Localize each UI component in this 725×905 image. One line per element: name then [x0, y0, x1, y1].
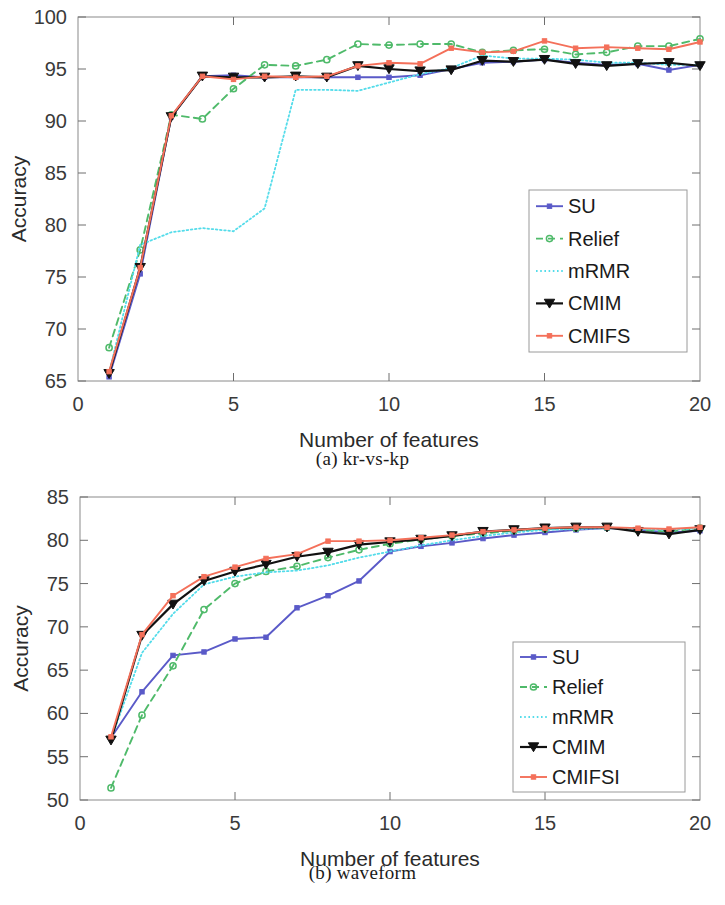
x-axis-tick-label: 0 [74, 812, 85, 834]
data-point-marker [264, 635, 268, 639]
data-point-marker [698, 525, 702, 529]
data-point-marker [418, 62, 422, 66]
data-point-marker [107, 369, 111, 373]
chart-a-svg: 6570758085909510005101520Number of featu… [0, 0, 725, 492]
chart-panel-a: 6570758085909510005101520Number of featu… [0, 0, 725, 492]
data-point-marker [233, 565, 237, 569]
data-point-marker [605, 45, 609, 49]
y-axis-tick-label: 95 [45, 58, 67, 80]
data-point-marker [202, 650, 206, 654]
legend-label: mRMR [568, 260, 630, 282]
data-point-marker [667, 47, 671, 51]
data-point-marker [450, 533, 454, 537]
data-point-marker [169, 114, 173, 118]
y-axis-tick-label: 70 [45, 318, 67, 340]
y-axis-tick-label: 70 [47, 616, 69, 638]
data-point-marker [542, 39, 546, 43]
data-point-marker [109, 735, 113, 739]
legend-label: Relief [552, 676, 604, 698]
data-point-marker [356, 64, 360, 68]
x-axis-tick-label: 0 [72, 393, 83, 415]
data-point-marker [294, 75, 298, 79]
legend-label: CMIM [552, 736, 605, 758]
data-point-marker [667, 68, 671, 72]
data-point-marker [531, 655, 535, 659]
x-axis-tick-label: 5 [229, 812, 240, 834]
data-point-marker [547, 334, 551, 338]
y-axis-tick-label: 80 [47, 529, 69, 551]
data-point-marker [574, 525, 578, 529]
data-point-marker [326, 539, 330, 543]
data-point-marker [140, 690, 144, 694]
data-point-marker [419, 535, 423, 539]
chart-panel-b: 505560657075808505101520Number of featur… [0, 470, 725, 905]
x-axis-tick-label: 10 [379, 812, 401, 834]
data-point-marker [200, 74, 204, 78]
data-point-marker [481, 529, 485, 533]
data-point-marker [636, 46, 640, 50]
data-point-marker [138, 265, 142, 269]
y-axis-tick-label: 50 [47, 789, 69, 811]
data-point-marker [667, 527, 671, 531]
data-point-marker [140, 632, 144, 636]
legend-label: Relief [568, 228, 620, 250]
figure-root: 6570758085909510005101520Number of featu… [0, 0, 725, 905]
x-axis-tick-label: 15 [533, 393, 555, 415]
data-point-marker [325, 74, 329, 78]
data-point-marker [357, 539, 361, 543]
x-axis-tick-label: 5 [228, 393, 239, 415]
data-point-marker [324, 57, 330, 63]
legend-label: CMIM [568, 292, 621, 314]
legend-label: CMIFS [568, 325, 630, 347]
x-axis-tick-label: 20 [689, 812, 711, 834]
data-point-marker [262, 74, 266, 78]
data-point-marker [233, 637, 237, 641]
legend-label: mRMR [552, 706, 614, 728]
y-axis-tick-label: 85 [45, 162, 67, 184]
data-point-marker [512, 528, 516, 532]
data-point-marker [295, 606, 299, 610]
legend: SUReliefmRMRCMIMCMIFS [529, 190, 687, 352]
data-point-marker [387, 75, 391, 79]
data-point-marker [326, 593, 330, 597]
data-point-marker [355, 41, 361, 47]
data-point-marker [547, 204, 551, 208]
y-axis-tick-label: 65 [45, 370, 67, 392]
data-point-marker [201, 606, 207, 612]
y-axis-title: Accuracy [9, 605, 32, 692]
y-axis-tick-label: 75 [47, 573, 69, 595]
caption-a: (a) kr-vs-kp [0, 448, 725, 470]
x-axis-tick-label: 15 [534, 812, 556, 834]
legend: SUReliefmRMRCMIMCMIFSI [513, 642, 685, 792]
y-axis-tick-label: 100 [34, 6, 67, 28]
data-point-marker [387, 61, 391, 65]
x-axis-tick-label: 10 [378, 393, 400, 415]
y-axis-tick-label: 75 [45, 266, 67, 288]
data-point-marker [264, 556, 268, 560]
y-axis-tick-label: 90 [45, 110, 67, 132]
y-axis-tick-label: 60 [47, 702, 69, 724]
data-point-marker [231, 77, 235, 81]
data-point-marker [480, 50, 484, 54]
data-point-marker [171, 653, 175, 657]
data-point-marker [543, 526, 547, 530]
data-point-marker [357, 579, 361, 583]
data-point-marker [388, 538, 392, 542]
data-point-marker [295, 552, 299, 556]
data-point-marker [636, 526, 640, 530]
x-axis-tick-label: 20 [689, 393, 711, 415]
data-point-marker [531, 775, 535, 779]
y-axis-tick-label: 65 [47, 659, 69, 681]
data-point-marker [605, 525, 609, 529]
caption-b: (b) waveform [0, 862, 725, 884]
legend-label: CMIFSI [552, 766, 620, 788]
y-axis-tick-label: 85 [47, 486, 69, 508]
data-point-marker [449, 46, 453, 50]
data-point-marker [511, 49, 515, 53]
data-point-marker [171, 593, 175, 597]
legend-label: SU [568, 195, 596, 217]
data-point-marker [698, 40, 702, 44]
chart-b-svg: 505560657075808505101520Number of featur… [0, 470, 725, 890]
data-point-marker [573, 46, 577, 50]
y-axis-title: Accuracy [7, 155, 30, 242]
